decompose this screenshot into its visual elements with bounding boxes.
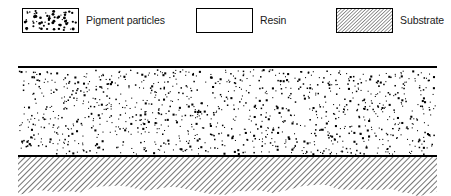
cross-section-canvas bbox=[0, 40, 451, 196]
legend-label-pigment-particles: Pigment particles bbox=[86, 15, 165, 26]
legend-entry-pigment-particles: Pigment particles bbox=[22, 6, 165, 34]
legend-entry-resin: Resin bbox=[196, 6, 286, 34]
substrate-swatch bbox=[336, 8, 393, 33]
legend-label-resin: Resin bbox=[260, 15, 286, 26]
hatched-pattern-icon bbox=[337, 9, 392, 32]
empty-rectangle-icon bbox=[197, 9, 252, 32]
legend: Pigment particles Resin Substrate bbox=[0, 0, 451, 40]
legend-entry-substrate: Substrate bbox=[336, 6, 444, 34]
cross-section-diagram bbox=[0, 40, 451, 196]
coating-cross-section-figure: Pigment particles Resin Substrate bbox=[0, 0, 451, 196]
substrate-layer bbox=[18, 155, 437, 196]
legend-label-substrate: Substrate bbox=[400, 15, 444, 26]
resin-swatch bbox=[196, 8, 253, 33]
coating-layer bbox=[18, 67, 437, 156]
pigment-particles-swatch bbox=[22, 8, 79, 33]
dotted-pattern-icon bbox=[23, 9, 78, 32]
